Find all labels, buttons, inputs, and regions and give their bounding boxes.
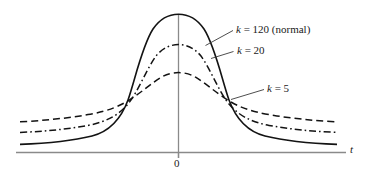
x-tick-label-zero: 0 (174, 158, 180, 169)
annotation-k20-value: = 20 (242, 44, 265, 56)
annotation-k120-value: = 120 (normal) (241, 23, 310, 35)
annotation-k5-value: = 5 (272, 82, 289, 94)
annotation-k20: k = 20 (237, 45, 265, 56)
plot-canvas (0, 0, 369, 178)
leader-line-k5 (231, 90, 264, 100)
annotation-k5: k = 5 (267, 83, 289, 94)
x-axis-label: t (350, 144, 353, 155)
leader-line-k120 (206, 31, 234, 46)
t-distribution-figure: k = 120 (normal) k = 20 k = 5 0 t (0, 0, 369, 178)
annotation-k120: k = 120 (normal) (236, 24, 310, 35)
